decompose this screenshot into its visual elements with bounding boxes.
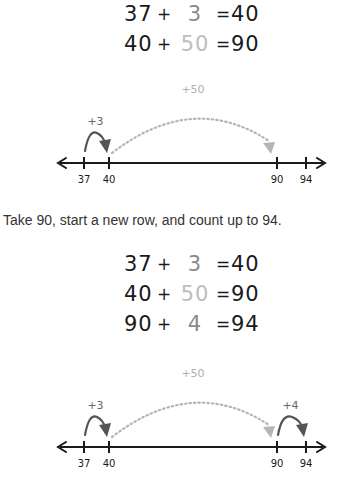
addend-a: 90 — [124, 312, 153, 336]
result: 40 — [231, 2, 260, 26]
equation-row: 37 + 3 = 40 — [120, 2, 260, 28]
plus-sign: + — [157, 254, 172, 274]
jump-label: +4 — [282, 399, 298, 412]
equals-sign: = — [216, 254, 231, 274]
jump-arrowhead-icon — [99, 139, 111, 153]
jump-arrowhead-icon — [296, 423, 308, 437]
tick-label: 40 — [103, 174, 116, 185]
jump-arc-dotted — [112, 119, 269, 153]
addend-a: 40 — [124, 32, 153, 56]
equals-sign: = — [216, 314, 231, 334]
equation-row: 40 + 50 = 90 — [120, 282, 260, 308]
addend-b: 4 — [178, 312, 212, 336]
addend-b: 50 — [178, 32, 212, 56]
result: 94 — [231, 312, 260, 336]
jump-label: +3 — [87, 115, 103, 128]
number-line-2: 37409094+3+50+4 — [0, 364, 338, 484]
jump-arrowhead-icon — [263, 142, 275, 154]
result: 90 — [231, 282, 260, 306]
plus-sign: + — [157, 314, 172, 334]
addend-b: 3 — [178, 252, 212, 276]
equals-sign: = — [216, 4, 231, 24]
equation-row: 37 + 3 = 40 — [120, 252, 260, 278]
addend-a: 37 — [124, 252, 153, 276]
result: 90 — [231, 32, 260, 56]
plus-sign: + — [157, 284, 172, 304]
jump-arc-dotted — [112, 403, 269, 437]
plus-sign: + — [157, 4, 172, 24]
number-line-1: 37409094+3+50 — [0, 80, 338, 200]
result: 40 — [231, 252, 260, 276]
tick-label: 90 — [271, 174, 284, 185]
tick-label: 94 — [300, 458, 313, 469]
jump-label: +50 — [181, 367, 204, 380]
plus-sign: + — [157, 34, 172, 54]
addend-a: 37 — [124, 2, 153, 26]
equals-sign: = — [216, 34, 231, 54]
jump-arrowhead-icon — [263, 426, 275, 438]
instruction-text: Take 90, start a new row, and count up t… — [3, 212, 282, 228]
equation-row: 90 + 4 = 94 — [120, 312, 260, 338]
tick-label: 37 — [78, 174, 91, 185]
tick-label: 37 — [78, 458, 91, 469]
jump-label: +3 — [87, 399, 103, 412]
tick-label: 40 — [103, 458, 116, 469]
addend-b: 3 — [178, 2, 212, 26]
jump-arrowhead-icon — [99, 423, 111, 437]
equation-row: 40 + 50 = 90 — [120, 32, 260, 58]
jump-label: +50 — [181, 83, 204, 96]
equals-sign: = — [216, 284, 231, 304]
tick-label: 94 — [300, 174, 313, 185]
addend-b: 50 — [178, 282, 212, 306]
addend-a: 40 — [124, 282, 153, 306]
tick-label: 90 — [271, 458, 284, 469]
